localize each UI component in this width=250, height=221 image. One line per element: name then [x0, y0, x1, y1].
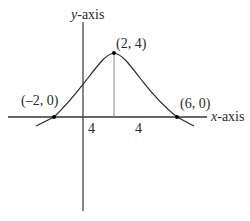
right-segment-length: 4 [135, 121, 142, 136]
left-root-label: (–2, 0) [21, 93, 59, 109]
y-axis-label: y-axis [69, 7, 104, 22]
bell-curve-diagram: y-axis x-axis (2, 4) (–2, 0) (6, 0) 4 4 [0, 0, 250, 221]
point-left-root [52, 115, 56, 119]
point-peak [112, 51, 116, 55]
left-segment-length: 4 [88, 121, 95, 136]
point-right-root [175, 115, 179, 119]
bell-curve [36, 53, 194, 126]
x-axis-label: x-axis [210, 109, 244, 124]
peak-point-label: (2, 4) [116, 36, 147, 52]
right-root-label: (6, 0) [180, 96, 211, 112]
